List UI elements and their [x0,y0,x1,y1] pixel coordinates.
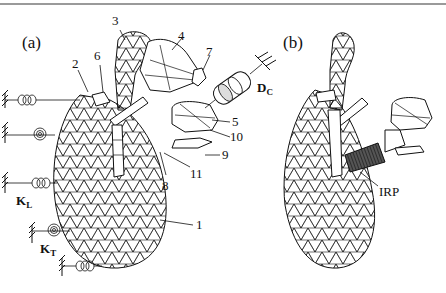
panel-b-label: (b) [283,33,303,52]
part-9-a [172,138,212,148]
larynx-model-figure: (a) [0,0,446,293]
panel-a-label: (a) [22,33,41,52]
label-10: 10 [230,129,243,144]
label-9: 9 [222,147,229,162]
part-5-a [172,102,218,132]
panel-a: (a) [2,13,276,276]
kt-label: KT [40,241,56,258]
part-7-a [192,68,206,86]
linear-spring-top [2,90,80,108]
label-2: 2 [72,56,79,71]
arytenoid-b [385,98,432,155]
label-11: 11 [190,166,203,181]
part-4-a [140,39,198,92]
kl-label: KL [16,193,32,210]
label-4: 4 [178,28,185,43]
label-6: 6 [94,48,101,63]
thyroid-mesh-a [54,95,166,268]
label-8: 8 [162,178,169,193]
label-1: 1 [196,217,203,232]
panel-b: (b) IRP [283,33,432,268]
inner-column-a [112,125,124,177]
linear-spring-kl: KL [2,172,57,210]
damper-dc: DC [205,52,276,108]
label-3: 3 [112,13,119,28]
irp-label: IRP [379,184,399,199]
label-7: 7 [206,44,213,59]
torsional-spring-top [2,122,55,143]
damper-label: DC [257,80,273,97]
label-5: 5 [232,114,239,129]
